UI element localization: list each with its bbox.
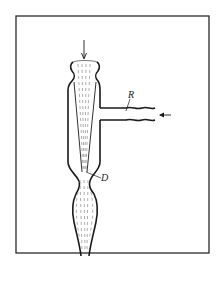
vessel-wall-right xyxy=(89,62,100,256)
apparatus-drawing xyxy=(0,0,221,285)
flow-streamlines xyxy=(76,64,92,252)
side-tube xyxy=(100,107,155,120)
label-R: R xyxy=(128,90,134,100)
label-D: D xyxy=(101,173,108,183)
diagram-canvas: R D xyxy=(0,0,221,285)
leader-line-D xyxy=(86,172,101,178)
inflow-arrow-side xyxy=(159,113,171,118)
inflow-arrow-top xyxy=(82,40,87,59)
figure-frame xyxy=(16,16,209,253)
leader-line-R xyxy=(126,99,130,111)
vessel-rim xyxy=(73,61,97,63)
inner-cone xyxy=(74,82,96,172)
